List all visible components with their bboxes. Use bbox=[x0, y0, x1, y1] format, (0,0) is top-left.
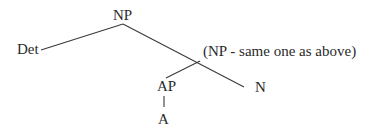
node-ap: AP bbox=[157, 78, 176, 94]
node-n: N bbox=[255, 79, 266, 95]
node-det: Det bbox=[17, 41, 39, 57]
tree-edges bbox=[0, 0, 377, 134]
syntax-tree-diagram: NP Det (NP - same one as above) AP N A bbox=[0, 0, 377, 134]
edge-np-ap bbox=[166, 61, 200, 78]
node-np-root: NP bbox=[113, 7, 132, 23]
node-annotation: (NP - same one as above) bbox=[203, 43, 356, 59]
node-a: A bbox=[158, 111, 169, 127]
edge-np-det bbox=[41, 24, 123, 50]
